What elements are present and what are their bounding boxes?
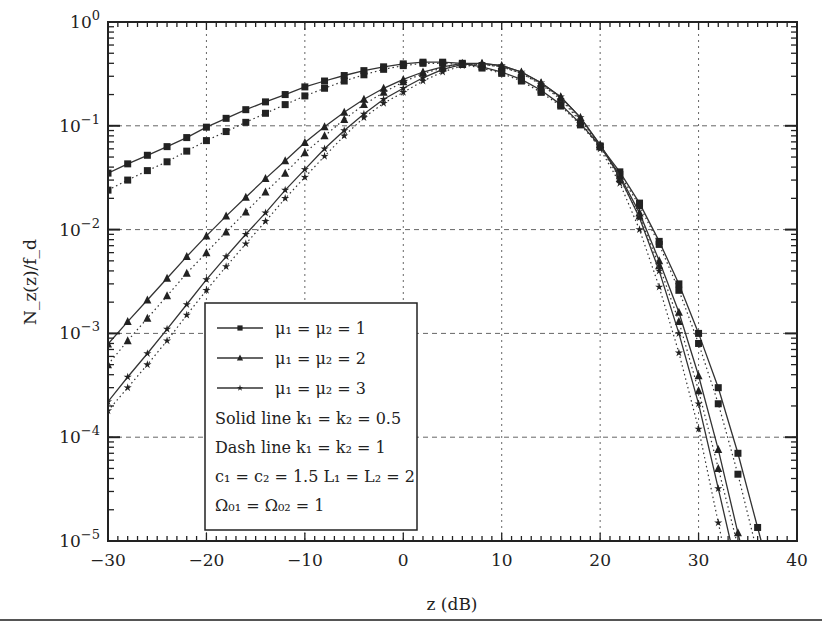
square-marker (734, 471, 741, 478)
triangle-marker (695, 371, 703, 379)
triangle-marker (301, 138, 309, 146)
square-marker (282, 101, 289, 108)
y-tick-label: 10−1 (59, 112, 100, 136)
x-axis-label: z (dB) (427, 594, 478, 614)
x-tick-label: 10 (491, 550, 513, 570)
triangle-marker (281, 169, 289, 177)
star-marker (124, 383, 132, 391)
square-marker (715, 384, 722, 391)
square-marker (282, 91, 289, 98)
y-tick-label: 100 (70, 8, 100, 32)
square-marker (498, 70, 505, 77)
legend: μ₁ = μ₂ = 1μ₁ = μ₂ = 2μ₁ = μ₂ = 3Solid l… (205, 303, 417, 530)
square-marker (754, 524, 761, 531)
square-marker (656, 241, 663, 248)
x-tick-label: 40 (786, 550, 808, 570)
square-marker (164, 158, 171, 165)
square-marker (695, 340, 702, 347)
square-marker (557, 103, 564, 110)
square-marker (360, 71, 367, 78)
x-tick-label: −20 (188, 550, 224, 570)
square-marker (400, 62, 407, 69)
series-layer (104, 59, 761, 558)
series-square-dotted (105, 60, 762, 558)
star-marker (222, 262, 230, 270)
series-triangle-dotted (104, 60, 737, 541)
y-tick-labels: 10010−110−210−310−410−5 (59, 8, 100, 551)
square-marker (242, 106, 249, 113)
x-tick-label: 20 (589, 550, 611, 570)
square-marker (341, 78, 348, 85)
square-marker (124, 177, 131, 184)
square-marker (237, 325, 242, 330)
square-marker (301, 92, 308, 99)
square-marker (203, 124, 210, 131)
square-marker (203, 137, 210, 144)
legend-label: μ₁ = μ₂ = 1 (275, 319, 366, 338)
chart: −30−20−10010203040 10010−110−210−310−410… (0, 0, 822, 630)
square-marker (124, 160, 131, 167)
square-marker (183, 148, 190, 155)
star-marker (183, 311, 191, 319)
square-marker (301, 83, 308, 90)
series-line (108, 63, 740, 541)
y-tick-label: 10−5 (59, 527, 100, 551)
square-marker (321, 78, 328, 85)
star-marker (261, 217, 269, 225)
y-tick-label: 10−3 (59, 319, 100, 343)
square-marker (242, 119, 249, 126)
y-axis-label: N_z(z)/f_d (20, 239, 40, 325)
square-marker (675, 287, 682, 294)
x-tick-label: 30 (688, 550, 710, 570)
y-tick-label: 10−4 (59, 423, 100, 447)
star-marker (281, 194, 289, 202)
square-marker (183, 134, 190, 141)
legend-note: c₁ = c₂ = 1.5 L₁ = L₂ = 2 (215, 467, 415, 486)
legend-note: Ω₀₁ = Ω₀₂ = 1 (215, 496, 325, 515)
legend-note: Solid line k₁ = k₂ = 0.5 (215, 409, 401, 428)
legend-label: μ₁ = μ₂ = 3 (275, 379, 366, 398)
triangle-marker (340, 108, 348, 116)
square-marker (144, 152, 151, 159)
series-line (108, 64, 737, 541)
y-tick-label: 10−2 (59, 216, 100, 240)
triangle-marker (183, 269, 191, 277)
star-marker (675, 349, 683, 357)
square-marker (695, 330, 702, 337)
triangle-marker (734, 528, 742, 536)
square-marker (380, 66, 387, 73)
square-marker (223, 115, 230, 122)
x-tick-labels: −30−20−10010203040 (90, 550, 808, 570)
square-marker (321, 85, 328, 92)
triangle-marker (301, 148, 309, 156)
triangle-marker (340, 115, 348, 123)
triangle-marker (143, 314, 151, 322)
triangle-marker (380, 88, 388, 96)
triangle-marker (714, 445, 722, 453)
square-marker (262, 98, 269, 105)
triangle-marker (242, 207, 250, 215)
square-marker (144, 167, 151, 174)
triangle-marker (124, 336, 132, 344)
square-marker (262, 110, 269, 117)
square-marker (538, 89, 545, 96)
x-tick-label: −30 (90, 550, 126, 570)
square-marker (419, 60, 426, 67)
square-marker (734, 450, 741, 457)
legend-note: Dash line k₁ = k₂ = 1 (215, 438, 386, 457)
x-tick-label: 0 (398, 550, 409, 570)
legend-label: μ₁ = μ₂ = 2 (275, 349, 366, 368)
star-marker (714, 518, 722, 526)
triangle-marker (675, 308, 683, 316)
series-line (108, 63, 730, 541)
x-tick-label: −10 (287, 550, 323, 570)
bottom-rule (0, 619, 822, 621)
triangle-marker (321, 131, 329, 139)
series-square-solid (105, 59, 762, 541)
triangle-marker (261, 188, 269, 196)
square-marker (164, 143, 171, 150)
square-marker (754, 550, 761, 557)
square-marker (518, 78, 525, 85)
triangle-marker (714, 464, 722, 472)
star-marker (655, 283, 663, 291)
